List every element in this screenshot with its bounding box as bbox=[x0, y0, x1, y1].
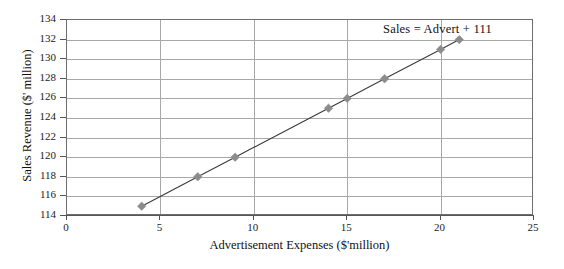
data-point-marker bbox=[343, 94, 351, 102]
y-tick-label-wrap: 114 bbox=[22, 209, 56, 220]
y-tick-label-wrap: 134 bbox=[22, 13, 56, 24]
x-tick-label: 5 bbox=[144, 222, 174, 233]
x-tick-label: 15 bbox=[331, 222, 361, 233]
data-point-marker bbox=[138, 202, 146, 210]
y-tick-label: 118 bbox=[26, 170, 56, 181]
y-tick-label-wrap: 116 bbox=[22, 189, 56, 200]
y-tick-label: 114 bbox=[26, 209, 56, 220]
y-tick-label-wrap: 130 bbox=[22, 52, 56, 63]
data-point-marker bbox=[194, 173, 202, 181]
data-point-marker bbox=[324, 104, 332, 112]
y-tick-label: 120 bbox=[26, 150, 56, 161]
y-tick-label: 124 bbox=[26, 111, 56, 122]
y-tick-label: 134 bbox=[26, 13, 56, 24]
data-point-marker bbox=[231, 153, 239, 161]
y-tick-label-wrap: 124 bbox=[22, 111, 56, 122]
trend-line bbox=[142, 40, 460, 207]
chart-page: Sales Revenue ($' million) Advertisement… bbox=[0, 0, 564, 269]
data-point-marker bbox=[436, 45, 444, 53]
regression-equation-annotation: Sales = Advert + 111 bbox=[383, 22, 492, 37]
x-tick-label: 20 bbox=[425, 222, 455, 233]
y-tick-label-wrap: 128 bbox=[22, 72, 56, 83]
y-tick-label-wrap: 122 bbox=[22, 131, 56, 142]
plot-area bbox=[66, 19, 533, 215]
x-tick-label: 25 bbox=[518, 222, 548, 233]
y-tick-label-wrap: 118 bbox=[22, 170, 56, 181]
y-tick-label-wrap: 132 bbox=[22, 33, 56, 44]
y-tick-label-wrap: 126 bbox=[22, 91, 56, 102]
data-point-marker bbox=[380, 75, 388, 83]
y-tick-label: 116 bbox=[26, 189, 56, 200]
x-tick-label: 0 bbox=[51, 222, 81, 233]
y-tick-label: 128 bbox=[26, 72, 56, 83]
y-tick-label: 132 bbox=[26, 33, 56, 44]
y-tick-label: 126 bbox=[26, 91, 56, 102]
y-tick-label: 130 bbox=[26, 52, 56, 63]
y-tick-label-wrap: 120 bbox=[22, 150, 56, 161]
y-tick-label: 122 bbox=[26, 131, 56, 142]
x-axis-title: Advertisement Expenses ($'million) bbox=[66, 238, 533, 253]
data-series bbox=[67, 20, 534, 216]
x-tick-label: 10 bbox=[238, 222, 268, 233]
